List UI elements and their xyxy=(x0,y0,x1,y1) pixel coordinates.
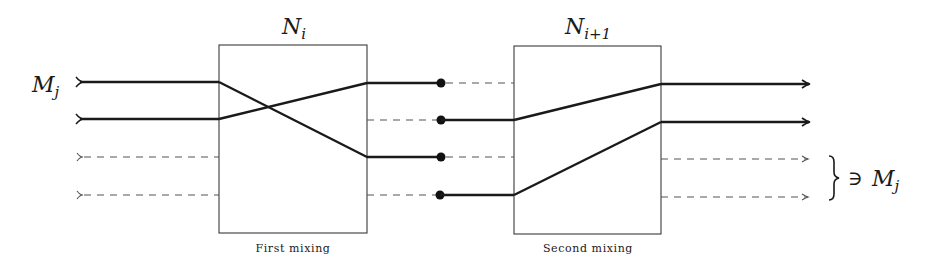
input-label: Mj xyxy=(31,72,60,101)
contains-symbol: ∋ xyxy=(848,166,863,190)
second-mixing-paths xyxy=(514,84,661,195)
input-label-base: M xyxy=(31,72,55,97)
mixer-box-title: Ni+1 xyxy=(564,14,611,43)
mixer-box-second: Ni+1 Second mixing xyxy=(514,14,661,255)
path-wire2-to-wire1 xyxy=(514,84,661,120)
mixer-box-caption: First mixing xyxy=(256,242,331,255)
junction-dot xyxy=(437,153,446,162)
input-wires xyxy=(80,82,219,195)
path-wire4-to-wire2 xyxy=(514,122,661,195)
first-mixing-paths xyxy=(219,82,441,195)
brace-icon xyxy=(829,156,839,200)
mixer-box-outline xyxy=(219,45,367,233)
input-tail-icon xyxy=(77,191,83,199)
between-stage-wires xyxy=(440,83,514,195)
input-tail-markers xyxy=(76,77,84,199)
mixer-box-outline xyxy=(514,46,661,234)
svg-text:Mj: Mj xyxy=(31,72,60,101)
mixer-box-first: Ni First mixing xyxy=(219,14,367,255)
mixer-box-title: Ni xyxy=(281,14,306,43)
junction-dot xyxy=(437,79,446,88)
mixing-diagram: Mj Ni First mixing Ni+1 Second mixing xyxy=(0,0,930,270)
output-label-text: Mj xyxy=(871,166,900,195)
input-tail-icon xyxy=(77,153,83,161)
path-wire2-to-wire1 xyxy=(219,83,441,119)
junction-dots xyxy=(436,79,446,200)
output-wires xyxy=(661,84,809,197)
mixer-box-caption: Second mixing xyxy=(543,242,633,255)
output-label: ∋ Mj xyxy=(829,156,900,200)
